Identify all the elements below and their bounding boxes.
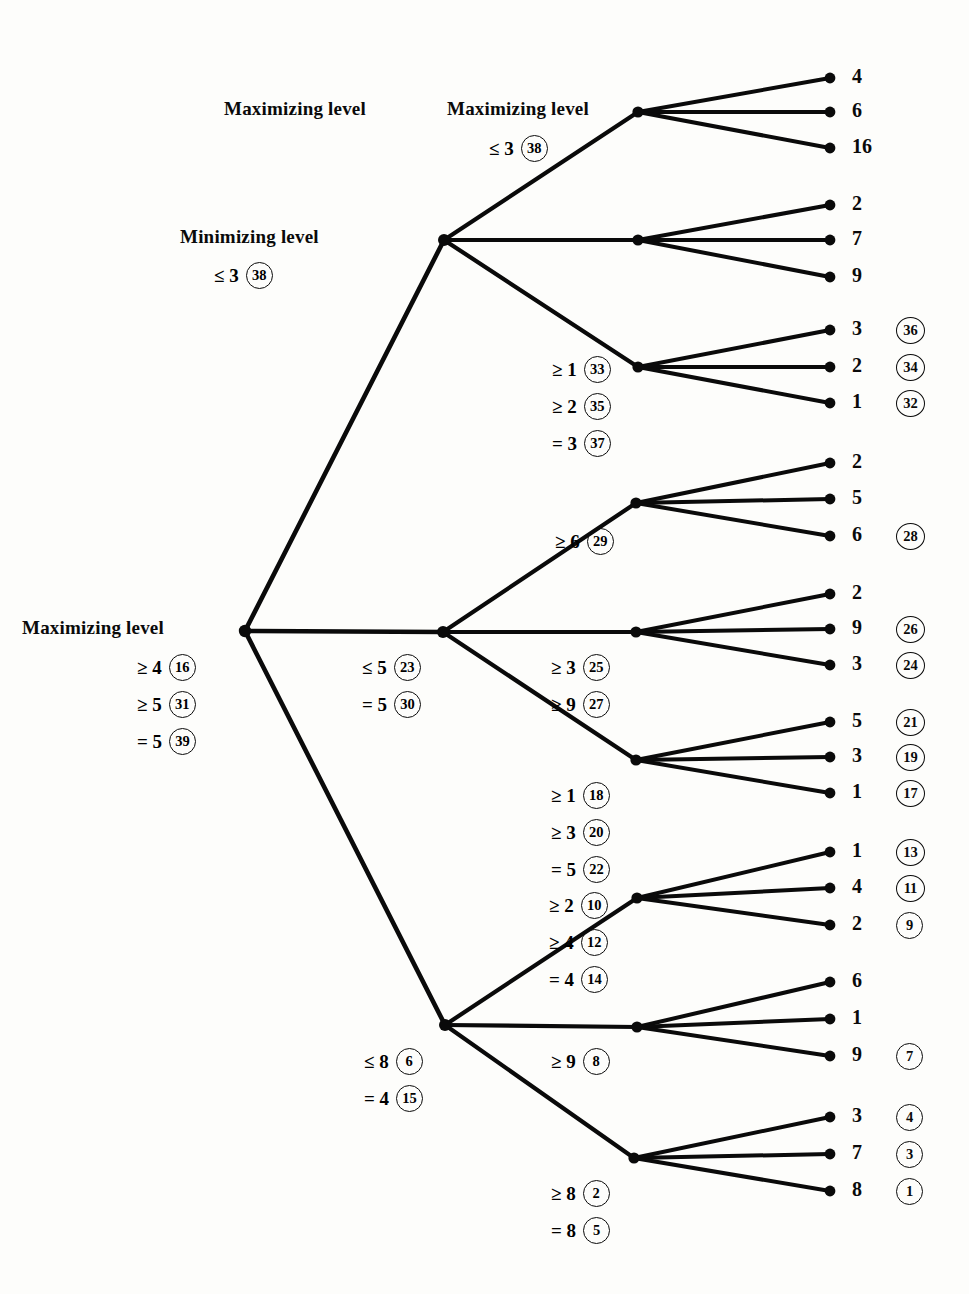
edge-inner-4-to-leaf-2 (636, 632, 830, 665)
leaf-value: 3 (852, 1104, 862, 1127)
leaf-visit-order-badge: 21 (896, 709, 925, 736)
bound-label-b-inner-33: ≥ 235 (552, 393, 611, 420)
node-mid-2 (439, 1019, 451, 1031)
node-root (239, 625, 251, 637)
step-order-badge: 18 (583, 782, 610, 809)
level-label-3: Maximizing level (447, 98, 589, 120)
edge-inner-0-to-leaf-2 (638, 112, 830, 148)
node-leaf-2-1 (825, 362, 836, 373)
node-leaf-1-2 (825, 272, 836, 283)
bound-label-b-inner-25: ≥ 927 (551, 691, 610, 718)
bound-label-b-inner-25: ≥ 325 (551, 654, 610, 681)
step-order-badge: 2 (583, 1180, 610, 1207)
step-order-badge: 38 (521, 135, 548, 162)
edge-inner-3-to-leaf-0 (636, 463, 830, 503)
edge-mid-0-to-inner-2 (444, 240, 638, 367)
node-leaf-7-0 (825, 977, 836, 988)
leaf-visit-order-badge: 34 (896, 354, 925, 381)
step-order-badge: 22 (583, 856, 610, 883)
bound-label-b-inner-10: ≥ 210 (549, 892, 608, 919)
step-order-badge: 37 (584, 430, 611, 457)
bound-label-b-mid-6: = 415 (364, 1085, 423, 1112)
leaf-value: 3 (852, 744, 862, 767)
leaf-visit-order-badge: 36 (896, 317, 925, 344)
edge-inner-0-to-leaf-0 (638, 78, 830, 112)
leaf-value: 2 (852, 450, 862, 473)
bound-label-b-mid-6: ≤ 86 (364, 1048, 423, 1075)
bound-label-b-root: = 539 (137, 728, 196, 755)
step-order-badge: 35 (584, 393, 611, 420)
node-leaf-3-2 (825, 531, 836, 542)
node-inner-8 (628, 1152, 639, 1163)
leaf-value: 9 (852, 616, 862, 639)
edge-inner-3-to-leaf-1 (636, 499, 830, 503)
edge-root-to-mid-1 (245, 631, 443, 632)
leaf-visit-order-badge: 26 (896, 616, 925, 643)
leaf-value: 1 (852, 1006, 862, 1029)
node-leaf-0-0 (825, 73, 836, 84)
edge-inner-2-to-leaf-2 (638, 367, 830, 403)
node-leaf-5-0 (825, 717, 836, 728)
bound-operator: ≥ 4 (549, 932, 574, 954)
node-leaf-8-1 (825, 1149, 836, 1160)
bound-label-b-min-top: ≤ 338 (214, 262, 273, 289)
bound-operator: ≥ 2 (552, 396, 577, 418)
edge-inner-8-to-leaf-0 (634, 1117, 830, 1158)
leaf-value: 3 (852, 317, 862, 340)
bound-label-b-root: ≥ 416 (137, 654, 196, 681)
bound-operator: = 8 (551, 1220, 576, 1242)
node-leaf-3-0 (825, 458, 836, 469)
node-leaf-7-1 (825, 1014, 836, 1025)
node-mid-0 (438, 234, 450, 246)
bound-label-b-mid-23: = 530 (362, 691, 421, 718)
step-order-badge: 31 (169, 691, 196, 718)
node-inner-0 (632, 106, 643, 117)
node-leaf-5-1 (825, 752, 836, 763)
node-leaf-7-2 (825, 1051, 836, 1062)
edge-mid-2-to-inner-2 (445, 1025, 634, 1158)
node-mid-1 (437, 626, 449, 638)
leaf-value: 1 (852, 839, 862, 862)
leaf-value: 5 (852, 486, 862, 509)
leaf-value: 9 (852, 264, 862, 287)
edge-inner-3-to-leaf-2 (636, 503, 830, 536)
node-inner-6 (631, 892, 642, 903)
bound-label-b-inner-33: = 337 (552, 430, 611, 457)
bound-label-b-mid-23: ≤ 523 (362, 654, 421, 681)
step-order-badge: 33 (584, 356, 611, 383)
step-order-badge: 25 (583, 654, 610, 681)
tree-edges-layer (0, 0, 969, 1294)
step-order-badge: 23 (394, 654, 421, 681)
bound-operator: ≥ 9 (551, 694, 576, 716)
step-order-badge: 12 (581, 929, 608, 956)
game-tree-diagram: Maximizing levelMinimizing levelMaximizi… (0, 0, 969, 1294)
bound-operator: ≥ 3 (551, 657, 576, 679)
leaf-value: 2 (852, 912, 862, 935)
leaf-visit-order-badge: 28 (896, 523, 925, 550)
edge-inner-5-to-leaf-0 (636, 722, 830, 760)
leaf-value: 9 (852, 1043, 862, 1066)
bound-label-b-inner-10: ≥ 412 (549, 929, 608, 956)
step-order-badge: 10 (581, 892, 608, 919)
step-order-badge: 30 (394, 691, 421, 718)
edge-root-to-mid-0 (245, 240, 444, 631)
leaf-visit-order-badge: 19 (896, 744, 925, 771)
leaf-visit-order-badge: 24 (896, 652, 925, 679)
edge-inner-7-to-leaf-2 (637, 1027, 830, 1056)
node-inner-1 (632, 234, 643, 245)
bound-operator: ≥ 6 (555, 531, 580, 553)
leaf-value: 2 (852, 581, 862, 604)
bound-operator: ≤ 8 (364, 1051, 389, 1073)
leaf-visit-order-badge: 4 (896, 1104, 923, 1131)
step-order-badge: 8 (583, 1048, 610, 1075)
bound-operator: ≥ 4 (137, 657, 162, 679)
edge-inner-4-to-leaf-1 (636, 629, 830, 632)
bound-operator: ≤ 3 (214, 265, 239, 287)
bound-label-b-inner-29: ≥ 629 (555, 528, 614, 555)
edge-inner-2-to-leaf-0 (638, 330, 830, 367)
node-inner-4 (630, 626, 641, 637)
leaf-value: 4 (852, 65, 862, 88)
step-order-badge: 15 (396, 1085, 423, 1112)
edge-inner-1-to-leaf-0 (638, 205, 830, 240)
level-label-1: Minimizing level (180, 226, 319, 248)
